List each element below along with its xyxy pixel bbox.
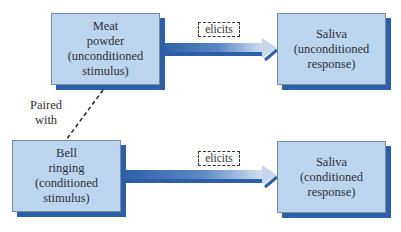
arrow-elicits-top [160,38,277,60]
node-bell-ringing: Bell ringing (conditioned stimulus) [12,140,121,212]
edge-label-elicits-bottom: elicits [198,151,240,166]
paired-with-connector [66,90,103,140]
arrow-elicits-bottom [120,165,277,187]
node-saliva-unconditioned: Saliva (unconditioned response) [277,13,386,85]
edge-label-elicits-top: elicits [198,22,240,37]
node-meat-powder: Meat powder (unconditioned stimulus) [51,13,160,85]
edge-label-paired-with: Paired with [26,98,66,128]
node-label: Meat powder (unconditioned stimulus) [68,19,144,79]
node-saliva-conditioned: Saliva (conditioned response) [277,141,386,213]
node-label: Saliva (conditioned response) [300,155,363,200]
node-label: Saliva (unconditioned response) [294,27,370,72]
node-label: Bell ringing (conditioned stimulus) [35,146,98,206]
